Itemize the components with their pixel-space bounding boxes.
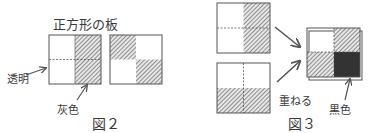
black-label: 黒色	[329, 101, 351, 117]
overlap-label: 重ねる	[279, 92, 312, 108]
gray-arrow	[77, 85, 87, 100]
fig2-caption: 図２	[92, 113, 120, 133]
gray-label: 灰色	[57, 101, 79, 117]
fig2-title-label: 正方形の板	[53, 14, 118, 33]
fig2-plate-left	[49, 35, 101, 84]
fig3-combined	[307, 28, 362, 80]
transparent-arrow	[26, 68, 46, 75]
black-arrow	[345, 79, 350, 100]
fig3-caption: 図３	[288, 113, 316, 133]
merge-arrow-bottom	[277, 61, 300, 82]
fig2-plate-right	[110, 35, 162, 84]
fig3-plate-bottom	[217, 63, 270, 113]
fig3-plate-top	[217, 3, 270, 53]
merge-arrow-top	[275, 27, 300, 47]
transparent-label: 透明	[7, 70, 29, 86]
